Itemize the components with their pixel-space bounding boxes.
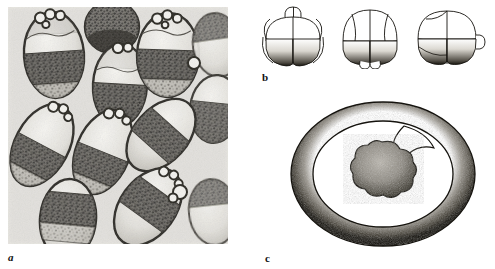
panel-a-micrograph	[8, 7, 228, 244]
micrograph-canvas	[8, 7, 228, 244]
figure-plate: a	[0, 0, 495, 269]
embryo-drawing-2	[333, 5, 407, 69]
panel-label-a: a	[8, 252, 14, 263]
embryo-drawing-1	[258, 5, 330, 69]
panel-label-b: b	[262, 72, 268, 83]
panel-b-eight-cell-stages	[255, 5, 493, 71]
panel-c-sectioned-embryo	[286, 100, 486, 248]
panel-label-c: c	[265, 253, 270, 264]
embryo-drawing-3	[410, 5, 490, 69]
